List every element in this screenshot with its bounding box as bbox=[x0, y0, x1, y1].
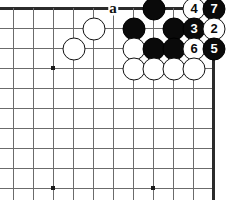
grid-line-vertical bbox=[53, 8, 54, 200]
move-number: 4 bbox=[190, 2, 197, 15]
stone-black-move-5[interactable]: 5 bbox=[203, 38, 226, 61]
go-board-diagram: 473265 a bbox=[0, 0, 226, 200]
grid-line-vertical bbox=[33, 8, 34, 200]
move-number: 5 bbox=[210, 42, 217, 55]
grid-line-vertical bbox=[113, 8, 114, 200]
grid-line-vertical bbox=[13, 8, 14, 200]
move-number: 7 bbox=[210, 2, 217, 15]
stone-white[interactable] bbox=[183, 58, 206, 81]
move-number: 2 bbox=[210, 22, 217, 35]
move-number: 6 bbox=[190, 42, 197, 55]
point-label-a: a bbox=[108, 1, 118, 16]
star-point bbox=[51, 66, 55, 70]
move-number: 3 bbox=[190, 22, 197, 35]
stone-white[interactable] bbox=[63, 38, 86, 61]
stone-white[interactable] bbox=[83, 18, 106, 41]
star-point bbox=[51, 186, 55, 190]
star-point bbox=[151, 186, 155, 190]
stone-black[interactable] bbox=[143, 0, 166, 21]
